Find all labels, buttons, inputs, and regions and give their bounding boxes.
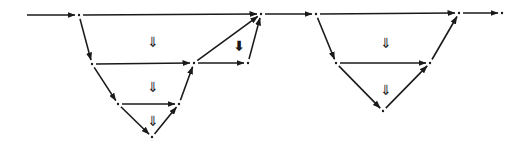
arrow-L-M bbox=[432, 17, 457, 60]
node-M bbox=[458, 12, 460, 14]
edges-group bbox=[27, 13, 498, 134]
arrow-E-F bbox=[180, 67, 192, 100]
diagram-canvas: ⇓⇓⇓⬇⇓⇓ bbox=[0, 0, 527, 143]
node-N bbox=[501, 12, 503, 14]
arrow-I-J bbox=[318, 18, 335, 60]
arrow-B-C bbox=[94, 67, 116, 100]
double-arrow-down-icon: ⇓ bbox=[147, 80, 159, 94]
arrow-F-H bbox=[197, 16, 258, 60]
double-arrow-down-icon: ⇓ bbox=[147, 35, 159, 49]
arrow-J-K bbox=[339, 66, 380, 108]
arrow-B-F bbox=[96, 63, 190, 64]
arrow-A-H bbox=[83, 14, 257, 15]
node-D bbox=[151, 136, 153, 138]
node-C bbox=[117, 103, 119, 105]
node-B bbox=[91, 63, 93, 65]
node-H bbox=[260, 13, 262, 15]
arrow-A-B bbox=[80, 19, 91, 60]
arrow-G-H bbox=[249, 18, 260, 59]
commutative-diagram bbox=[0, 0, 527, 143]
node-I bbox=[315, 13, 317, 15]
node-L bbox=[429, 62, 431, 64]
node-A bbox=[78, 14, 80, 16]
double-arrow-down-icon: ⇓ bbox=[380, 83, 392, 97]
node-E bbox=[178, 103, 180, 105]
arrow-C-D bbox=[121, 107, 149, 134]
arrow-I-M bbox=[320, 13, 455, 14]
nodes-group bbox=[78, 12, 503, 138]
node-G bbox=[247, 62, 249, 64]
double-arrow-down-icon: ⇓ bbox=[380, 36, 392, 50]
node-K bbox=[382, 110, 384, 112]
node-J bbox=[335, 62, 337, 64]
arrow-K-L bbox=[386, 66, 427, 108]
double-arrow-down-icon: ⇓ bbox=[147, 114, 159, 128]
node-F bbox=[193, 62, 195, 64]
double-arrow-down-icon: ⬇ bbox=[233, 39, 245, 53]
